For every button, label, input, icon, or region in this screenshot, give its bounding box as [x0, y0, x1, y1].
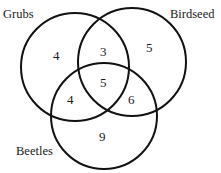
- grubs-only-value: 4: [53, 48, 60, 63]
- grubs-label: Grubs: [3, 7, 34, 21]
- venn-diagram: Grubs Birdseed Beetles 4 3 5 5 4 6 9: [0, 0, 221, 173]
- birdseed-label: Birdseed: [170, 7, 215, 21]
- beetles-only-value: 9: [99, 129, 106, 144]
- grubs-circle: [21, 13, 129, 121]
- birdseed-beetles-value: 6: [128, 92, 135, 107]
- birdseed-only-value: 5: [146, 40, 153, 55]
- beetles-label: Beetles: [16, 144, 53, 158]
- grubs-beetles-value: 4: [67, 92, 74, 107]
- grubs-birdseed-value: 3: [100, 44, 107, 59]
- all-three-value: 5: [100, 75, 107, 90]
